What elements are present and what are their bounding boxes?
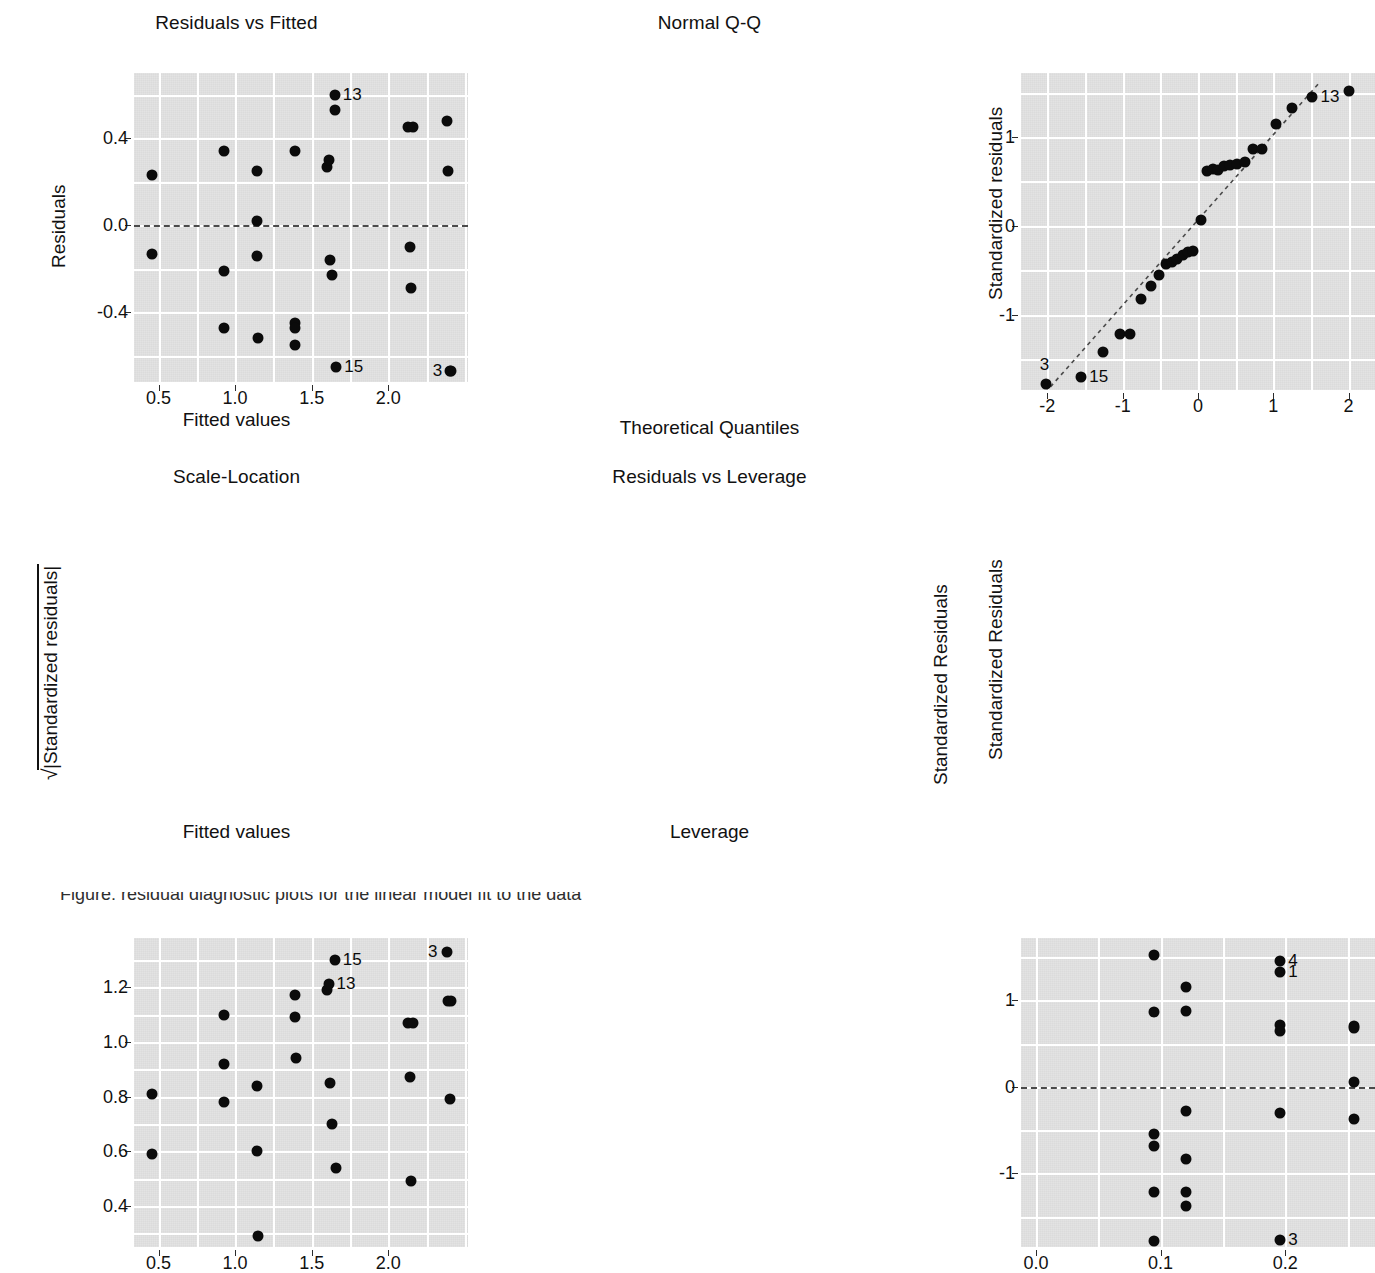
- gridline-vertical: [1160, 73, 1162, 390]
- data-point: [441, 115, 452, 126]
- y-tick-label: -1: [945, 1163, 1015, 1184]
- y-tick-label: 0.4: [58, 1195, 128, 1216]
- gridline-vertical: [159, 938, 161, 1247]
- gridline-horizontal: [1021, 1044, 1375, 1046]
- y-tick-label: 0.6: [58, 1141, 128, 1162]
- point-label: 13: [337, 974, 356, 994]
- data-point: [441, 946, 452, 957]
- data-point: [1188, 245, 1199, 256]
- gridline-vertical: [465, 73, 467, 382]
- panel-title-residuals-vs-leverage: Residuals vs Leverage: [473, 466, 946, 488]
- data-point: [1180, 1187, 1191, 1198]
- x-tick-label: -1: [1115, 396, 1131, 417]
- gridline-horizontal: [1021, 1173, 1375, 1175]
- gridline-vertical: [1236, 73, 1238, 390]
- gridline-horizontal: [134, 138, 468, 140]
- gridline-horizontal: [134, 1233, 468, 1235]
- gridline-horizontal: [134, 960, 468, 962]
- gridline-vertical: [1085, 73, 1087, 390]
- gridline-vertical: [197, 73, 199, 382]
- sqrt-symbol-group: √ |Standardized residuals|: [40, 566, 62, 780]
- data-point: [219, 1097, 230, 1108]
- plot-area-residuals-vs-fitted: 13153: [134, 73, 468, 382]
- gridline-vertical: [1161, 938, 1163, 1247]
- radical-icon: √: [39, 768, 60, 780]
- x-axis-label-theoretical-quantiles: Theoretical Quantiles: [473, 417, 946, 439]
- point-label: 13: [1320, 87, 1339, 107]
- data-point: [291, 1053, 302, 1064]
- x-axis-label-leverage: Leverage: [473, 821, 946, 843]
- gridline-horizontal: [134, 95, 468, 97]
- gridline-vertical: [350, 73, 352, 382]
- gridline-horizontal: [1021, 181, 1375, 183]
- y-tick-label: 1.2: [58, 977, 128, 998]
- data-point: [289, 146, 300, 157]
- x-tick-label: 1: [1268, 396, 1278, 417]
- data-point: [1287, 102, 1298, 113]
- gridline-vertical: [1098, 938, 1100, 1247]
- y-axis-label-right-standardized-residuals: Standardized Residuals: [930, 584, 952, 785]
- gridline-vertical: [465, 938, 467, 1247]
- gridline-horizontal: [1021, 1000, 1375, 1002]
- plot-area-scale-location: 15133: [134, 938, 468, 1247]
- data-point: [329, 954, 340, 965]
- data-point: [219, 1058, 230, 1069]
- x-axis-label-fitted-values: Fitted values: [0, 821, 473, 843]
- gridline-horizontal: [134, 1042, 468, 1044]
- data-point: [219, 266, 230, 277]
- data-point: [325, 255, 336, 266]
- x-axis-label-fitted-values: Fitted values: [0, 409, 473, 431]
- data-point: [1098, 346, 1109, 357]
- data-point: [1307, 91, 1318, 102]
- gridline-horizontal: [1021, 1130, 1375, 1132]
- gridline-vertical: [1036, 938, 1038, 1247]
- panel-title-normal-qq: Normal Q-Q: [473, 12, 946, 34]
- gridline-horizontal: [134, 312, 468, 314]
- point-label: 3: [428, 942, 437, 962]
- gridline-horizontal: [134, 1151, 468, 1153]
- data-point: [1076, 371, 1087, 382]
- gridline-horizontal: [134, 1097, 468, 1099]
- data-point: [407, 1017, 418, 1028]
- data-point: [1348, 1076, 1359, 1087]
- x-tick-label: 0.2: [1273, 1253, 1298, 1273]
- data-point: [406, 283, 417, 294]
- gridline-vertical: [1348, 938, 1350, 1247]
- data-point: [1149, 1187, 1160, 1198]
- data-point: [407, 122, 418, 133]
- gridline-vertical: [273, 73, 275, 382]
- data-point: [446, 366, 457, 377]
- gridline-horizontal: [134, 1179, 468, 1181]
- x-tick-label: 0.5: [146, 388, 171, 409]
- gridline-horizontal: [134, 356, 468, 358]
- gridline-vertical: [235, 938, 237, 1247]
- reference-line-zero: [1021, 1087, 1375, 1089]
- data-point: [1153, 269, 1164, 280]
- gridline-vertical: [273, 938, 275, 1247]
- y-tick-label: -0.4: [58, 302, 128, 323]
- x-tick-label: 0.0: [1023, 1253, 1048, 1273]
- data-point: [1270, 118, 1281, 129]
- gridline-horizontal: [134, 1015, 468, 1017]
- panel-residuals-vs-leverage: Residuals vs Leverage 413 0.00.10.210-1 …: [473, 454, 946, 908]
- gridline-vertical: [197, 938, 199, 1247]
- data-point: [251, 1080, 262, 1091]
- gridline-vertical: [312, 938, 314, 1247]
- gridline-vertical: [159, 73, 161, 382]
- data-point: [1125, 329, 1136, 340]
- panel-title-scale-location: Scale-Location: [0, 466, 473, 488]
- panel-residuals-vs-fitted: Residuals vs Fitted 13153 0.51.01.52.00.…: [0, 0, 473, 454]
- data-point: [1114, 329, 1125, 340]
- data-point: [147, 248, 158, 259]
- point-label: 15: [344, 357, 363, 377]
- x-tick-label: 0.5: [146, 1253, 171, 1273]
- data-point: [1344, 85, 1355, 96]
- data-point: [323, 979, 334, 990]
- gridline-horizontal: [1021, 137, 1375, 139]
- x-tick-label: 2.0: [376, 388, 401, 409]
- figure-caption-text: Figure: residual diagnostic plots for th…: [60, 892, 581, 905]
- data-point: [1275, 955, 1286, 966]
- data-point: [251, 165, 262, 176]
- radical-overbar: [37, 564, 39, 770]
- x-tick-label: 1.5: [299, 388, 324, 409]
